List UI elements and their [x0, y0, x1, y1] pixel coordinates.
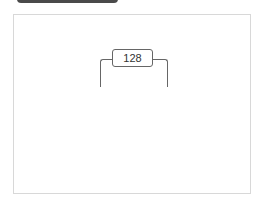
bracket-value-label: 128	[112, 49, 153, 67]
canvas-panel	[13, 14, 251, 194]
bracket-left-arm	[100, 59, 112, 87]
bracket-value-text: 128	[123, 52, 141, 64]
header-bar	[17, 0, 118, 3]
bracket-right-arm	[153, 59, 168, 87]
